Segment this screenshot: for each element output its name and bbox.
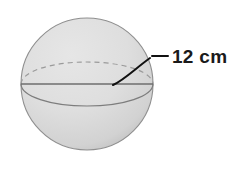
sphere-figure: 12 cm — [0, 0, 239, 170]
measure-label: 12 cm — [172, 46, 227, 67]
sphere-diagram-container: 12 cm — [0, 0, 239, 170]
